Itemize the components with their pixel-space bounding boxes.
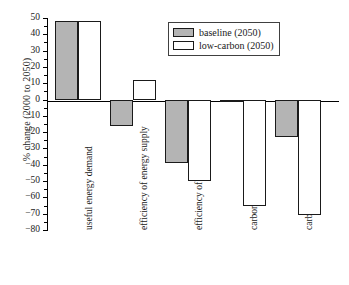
category-label: efficiency of energy supply	[139, 126, 149, 230]
y-tick-40: 40	[43, 34, 48, 35]
bar-baseline	[275, 100, 298, 138]
legend-label-baseline: baseline (2050)	[199, 27, 261, 38]
y-tick-30: 30	[43, 51, 48, 52]
y-tick-label-50: 50	[31, 12, 41, 22]
legend-item-baseline: baseline (2050)	[173, 26, 274, 39]
y-tick-label--40: −40	[25, 159, 40, 169]
y-tick--70: −70	[43, 214, 48, 215]
bar-lowcarbon	[133, 80, 156, 100]
y-tick-20: 20	[43, 67, 48, 68]
y-tick-label--80: −80	[25, 224, 40, 234]
legend-item-lowcarbon: low-carbon (2050)	[173, 39, 274, 52]
y-tick--80: −80	[43, 230, 48, 231]
y-tick-minor	[44, 189, 47, 190]
y-tick-minor	[44, 42, 47, 43]
y-tick--50: −50	[43, 181, 48, 182]
y-tick-label-20: 20	[31, 61, 41, 71]
y-tick--10: −10	[43, 116, 48, 117]
y-tick-label-0: 0	[35, 94, 40, 104]
bar-lowcarbon	[78, 21, 101, 99]
y-tick-minor	[44, 124, 47, 125]
y-tick-minor	[44, 206, 47, 207]
gray-filled-swatch-icon	[173, 28, 194, 37]
y-tick-label--20: −20	[25, 126, 40, 136]
y-tick-label--30: −30	[25, 142, 40, 152]
y-tick-label--50: −50	[25, 175, 40, 185]
y-tick-minor	[44, 108, 47, 109]
bar-group	[110, 18, 165, 230]
y-tick-label--70: −70	[25, 208, 40, 218]
y-tick-label--60: −60	[25, 191, 40, 201]
bar-baseline	[165, 100, 188, 164]
y-tick-minor	[44, 222, 47, 223]
y-tick-label--10: −10	[25, 110, 40, 120]
bar-group	[55, 18, 110, 230]
y-tick-label-40: 40	[31, 28, 41, 38]
bar-group	[275, 18, 330, 230]
y-tick--30: −30	[43, 148, 48, 149]
y-tick-0: 0	[43, 100, 48, 101]
bar-chart-figure: % change (2000 to 2050) 50403020100−10−2…	[0, 0, 349, 285]
y-tick-minor	[44, 157, 47, 158]
category-label: useful energy demand	[84, 146, 94, 230]
y-tick-label-30: 30	[31, 45, 41, 55]
bar-lowcarbon	[243, 100, 266, 206]
chart-legend: baseline (2050) low-carbon (2050)	[168, 22, 280, 56]
bar-baseline	[220, 100, 243, 102]
y-tick-minor	[44, 59, 47, 60]
y-tick--40: −40	[43, 165, 48, 166]
bar-lowcarbon	[298, 100, 321, 216]
y-tick-minor	[44, 140, 47, 141]
bar-baseline	[55, 21, 78, 99]
y-tick-minor	[44, 75, 47, 76]
y-tick-10: 10	[43, 83, 48, 84]
y-tick-minor	[44, 91, 47, 92]
white-empty-swatch-icon	[173, 41, 194, 50]
y-tick-minor	[44, 26, 47, 27]
y-tick--20: −20	[43, 132, 48, 133]
y-tick-label-10: 10	[31, 77, 41, 87]
y-tick--60: −60	[43, 197, 48, 198]
y-tick-minor	[44, 173, 47, 174]
y-tick-50: 50	[43, 18, 48, 19]
bar-baseline	[110, 100, 133, 126]
legend-label-lowcarbon: low-carbon (2050)	[199, 40, 274, 51]
bar-lowcarbon	[188, 100, 211, 182]
